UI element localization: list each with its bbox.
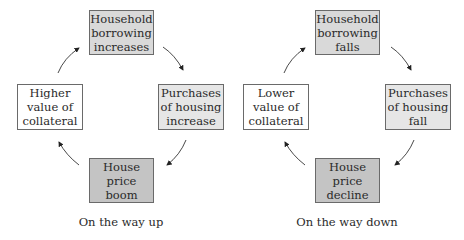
caption-way-up: On the way up — [51, 215, 191, 229]
box-higher-value-collateral: Higher value of collateral — [17, 84, 83, 130]
box-purchases-housing-fall: Purchases of housing fall — [385, 84, 451, 130]
box-purchases-housing-increase: Purchases of housing increase — [158, 84, 224, 130]
box-lower-value-collateral: Lower value of collateral — [243, 84, 309, 130]
box-household-borrowing-falls: Household borrowing falls — [315, 10, 380, 55]
box-house-price-decline: House price decline — [315, 158, 380, 203]
caption-way-down: On the way down — [277, 215, 417, 229]
box-house-price-boom: House price boom — [89, 158, 154, 203]
box-household-borrowing-increases: Household borrowing increases — [89, 10, 154, 55]
